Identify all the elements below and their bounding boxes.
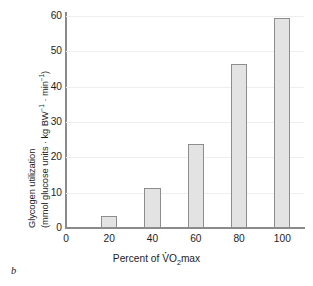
y-axis-line xyxy=(65,12,67,228)
x-axis-tick-label: 80 xyxy=(222,234,256,244)
gridline-y xyxy=(66,87,304,88)
x-axis-tick-label: 40 xyxy=(136,234,170,244)
gridline-y xyxy=(66,51,304,52)
bar-40 xyxy=(144,188,160,228)
gridline-y xyxy=(66,157,304,158)
y-axis-tick-label: 0 xyxy=(40,223,62,233)
y-axis-tick-label: 10 xyxy=(40,188,62,198)
bar-80 xyxy=(231,64,247,228)
gridline-y xyxy=(66,16,304,17)
x-axis-title-o: O xyxy=(169,253,177,264)
gridline-y xyxy=(66,122,304,123)
plot-area xyxy=(66,16,304,228)
y-axis-tick-label: 30 xyxy=(40,117,62,127)
x-axis-title-post: max xyxy=(181,253,200,264)
y-axis-tick-label: 60 xyxy=(40,11,62,21)
x-axis-tick-label: 100 xyxy=(265,234,299,244)
x-axis-tick-label: 0 xyxy=(49,234,83,244)
x-axis-tick-label: 60 xyxy=(179,234,213,244)
y-axis-tick-label: 20 xyxy=(40,152,62,162)
bar-100 xyxy=(274,18,290,228)
x-axis-tick-label: 20 xyxy=(92,234,126,244)
bar-20 xyxy=(101,216,117,228)
y-axis-tick-label: 40 xyxy=(40,82,62,92)
y-axis-title-line-1: Glycogen utilization xyxy=(27,149,36,228)
x-axis-title: Percent of VO2max xyxy=(0,253,313,264)
gridline-y xyxy=(66,193,304,194)
bar-60 xyxy=(188,144,204,228)
x-axis-title-pre: Percent of xyxy=(113,253,162,264)
figure-panel-b: Glycogen utilization (mmol glucose units… xyxy=(0,0,313,286)
panel-label: b xyxy=(11,265,16,276)
y-axis-tick-label: 50 xyxy=(40,46,62,56)
vdot-v: V xyxy=(162,253,169,264)
